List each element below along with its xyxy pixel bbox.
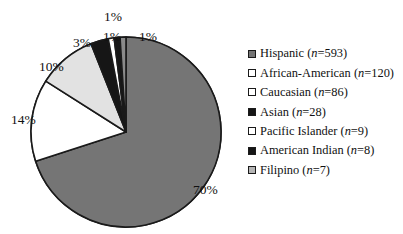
legend-label-african-american: African-American (n=120)	[260, 67, 394, 79]
legend-item-american-indian: American Indian (n=8)	[248, 141, 403, 160]
legend-item-pacific-islander: Pacific Islander (n=9)	[248, 122, 403, 141]
legend-item-caucasian: Caucasian (n=86)	[248, 83, 403, 102]
pie-label-american-indian: 1%	[104, 10, 122, 24]
legend-swatch-icon-african-american	[248, 69, 256, 77]
legend-item-african-american: African-American (n=120)	[248, 63, 403, 82]
legend-swatch-icon-caucasian	[248, 88, 256, 96]
pie-label-african-american: 14%	[11, 113, 36, 127]
legend-swatch-icon-filipino	[248, 166, 256, 174]
chart-legend: Hispanic (n=593) African-American (n=120…	[248, 44, 403, 180]
pie-label-filipino: 1%	[139, 30, 157, 44]
legend-item-filipino: Filipino (n=7)	[248, 160, 403, 179]
legend-item-asian: Asian (n=28)	[248, 102, 403, 121]
legend-label-american-indian: American Indian (n=8)	[260, 144, 374, 156]
legend-swatch-icon-hispanic	[248, 50, 256, 58]
pie-label-caucasian: 10%	[39, 60, 64, 74]
pie-label-pacific-islander: 1%	[103, 30, 121, 44]
legend-swatch-icon-pacific-islander	[248, 127, 256, 135]
legend-label-caucasian: Caucasian (n=86)	[260, 86, 348, 98]
legend-swatch-icon-american-indian	[248, 147, 256, 155]
pie-label-hispanic: 70%	[193, 183, 218, 197]
pie-label-asian: 3%	[73, 36, 91, 50]
legend-swatch-icon-asian	[248, 108, 256, 116]
pie-chart-figure: 70% 14% 10% 3% 1% 1% 1% Hispanic (n=593)…	[0, 0, 403, 234]
legend-label-pacific-islander: Pacific Islander (n=9)	[260, 125, 368, 137]
legend-label-filipino: Filipino (n=7)	[260, 164, 330, 176]
legend-item-hispanic: Hispanic (n=593)	[248, 44, 403, 63]
pie-chart-plot-area: 70% 14% 10% 3% 1% 1% 1%	[0, 0, 240, 234]
legend-label-asian: Asian (n=28)	[260, 106, 326, 118]
legend-label-hispanic: Hispanic (n=593)	[260, 47, 347, 59]
